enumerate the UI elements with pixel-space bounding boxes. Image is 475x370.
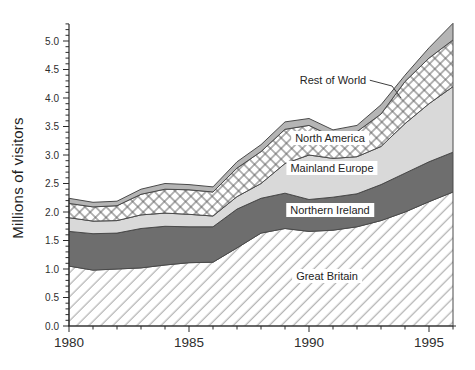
y-tick-label: 2.0 [45, 207, 59, 218]
visitors-stacked-area-figure: 0.00.51.01.52.02.53.03.54.04.55.01980198… [0, 0, 475, 370]
y-tick-label: 2.5 [45, 178, 59, 189]
y-tick-label: 4.0 [45, 93, 59, 104]
x-tick-label: 1990 [294, 335, 324, 350]
y-tick-label: 4.5 [45, 64, 59, 75]
y-tick-label: 1.5 [45, 235, 59, 246]
y-tick-label: 5.0 [45, 36, 59, 47]
y-tick-label: 1.0 [45, 264, 59, 275]
y-tick-label: 0.5 [45, 292, 59, 303]
x-ticks: 1980198519901995 [54, 326, 453, 350]
label-northern-ireland: Northern Ireland [286, 203, 374, 217]
y-tick-label: 3.0 [45, 150, 59, 161]
stacked-area-plot: 0.00.51.01.52.02.53.03.54.04.55.01980198… [0, 0, 475, 370]
label-mainland-europe: Mainland Europe [286, 161, 377, 175]
y-axis-title: Millions of visitors [9, 117, 26, 239]
y-tick-label: 3.5 [45, 121, 59, 132]
y-tick-label: 0.0 [45, 321, 59, 332]
x-tick-label: 1995 [414, 335, 444, 350]
stacked-bands [69, 23, 453, 326]
label-rest-of-world: Rest of World [296, 73, 370, 87]
x-tick-label: 1985 [174, 335, 204, 350]
x-tick-label: 1980 [54, 335, 84, 350]
y-ticks: 0.00.51.01.52.02.53.03.54.04.55.0 [45, 24, 69, 332]
label-great-britain: Great Britain [292, 269, 362, 283]
label-north-america: North America [291, 131, 369, 145]
